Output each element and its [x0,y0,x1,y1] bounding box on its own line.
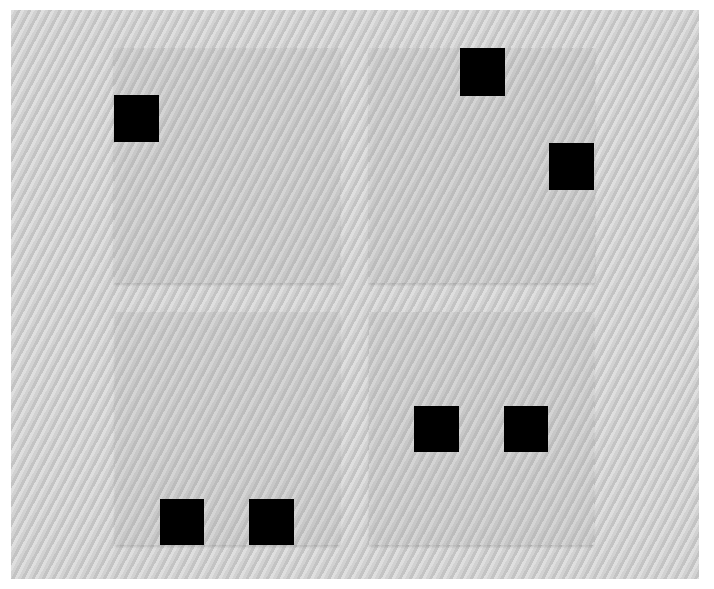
black-square [249,499,294,545]
black-square [504,406,548,452]
panel-top-left [114,48,340,283]
black-square [160,499,204,545]
black-square [460,48,505,96]
black-square [414,406,459,452]
panel-bottom-right [369,312,594,545]
panel-bottom-left [115,312,340,545]
black-square [114,95,159,142]
black-square [549,143,594,190]
panel-top-right [369,48,595,283]
